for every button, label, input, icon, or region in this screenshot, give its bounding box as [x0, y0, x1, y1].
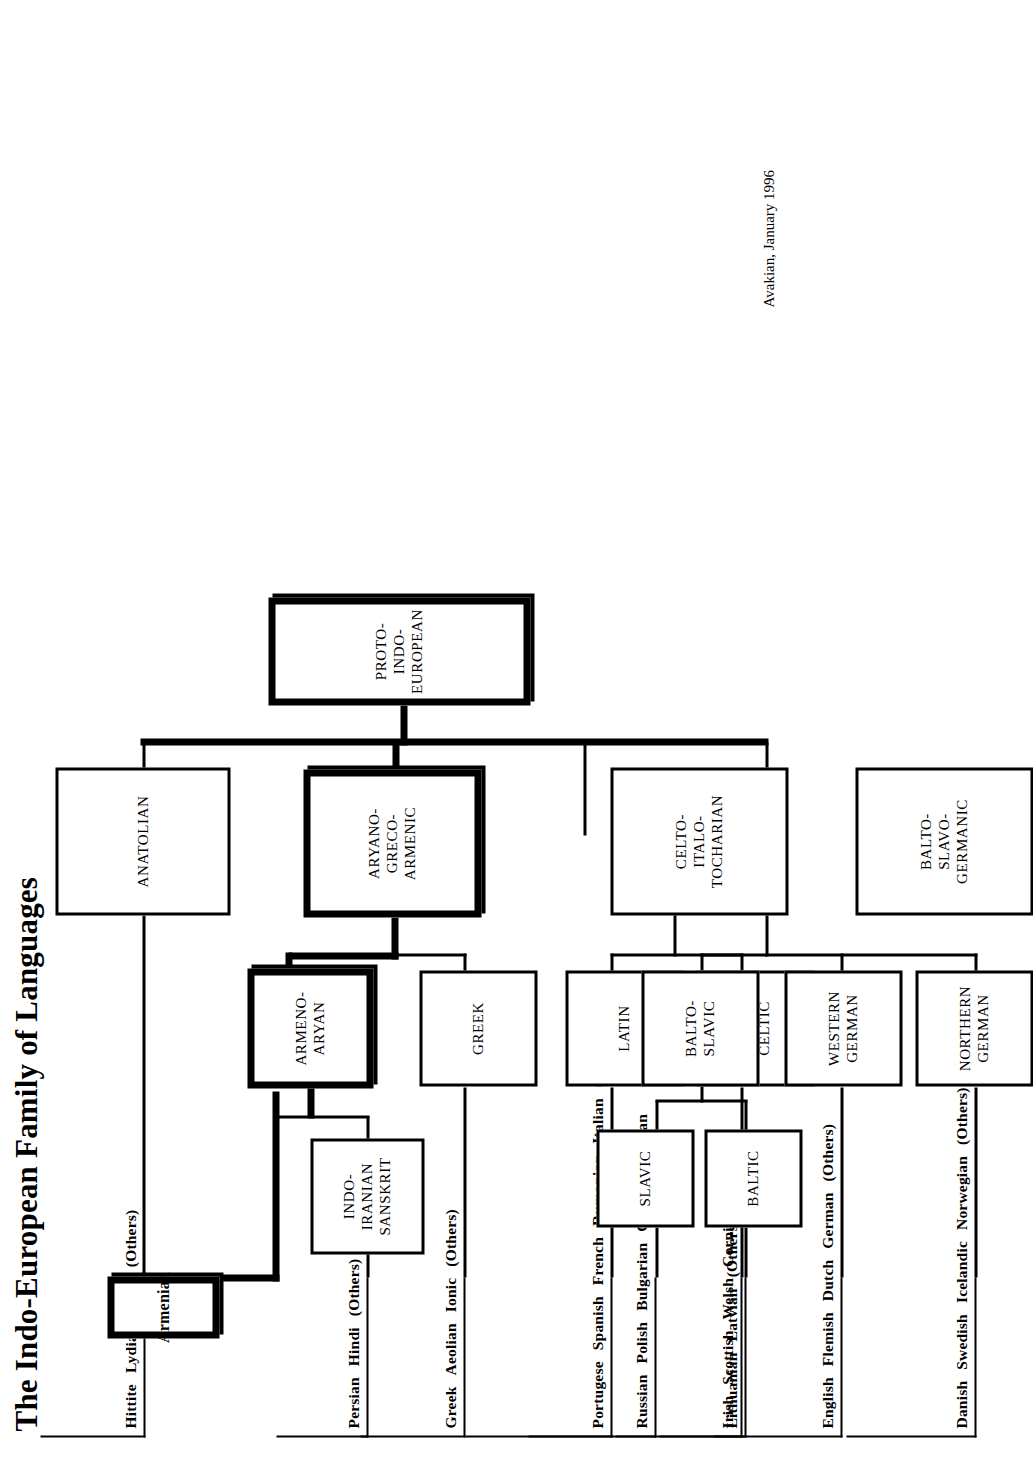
leaf-language-list: PersianHindi(Others): [344, 1247, 362, 1428]
node-indo-iranian-sanskrit[interactable]: INDO- IRANIAN SANSKRIT: [310, 1138, 424, 1254]
stem-baltic: [744, 1227, 747, 1277]
leaf-language: Flemish: [818, 1301, 836, 1366]
edge-armenian-horz: [272, 1091, 279, 1281]
leaf-language: Persian: [344, 1366, 362, 1428]
node-armenian[interactable]: Armenian: [107, 1276, 219, 1338]
node-slavic[interactable]: SLAVIC: [596, 1129, 694, 1227]
leaf-language: Icelandic: [952, 1230, 970, 1303]
node-aryano-greco-armenic[interactable]: ARYANO- GRECO- ARMENIC: [303, 769, 481, 917]
leaf-language: Hittite: [121, 1373, 139, 1428]
node-greek[interactable]: GREEK: [419, 970, 537, 1086]
edge-aga-spine: [288, 952, 398, 959]
leaf-language: (Others): [344, 1247, 362, 1316]
edge-root-stub: [400, 705, 407, 745]
leaf-group-greek: GreekAeolianIonic(Others): [360, 1277, 465, 1437]
edge-aga-stub: [391, 917, 398, 959]
edge-slavic: [655, 1100, 658, 1131]
leaf-language-list: DanishSwedishIcelandicNorwegian(Others): [952, 1076, 970, 1428]
leaf-language: Norwegian: [952, 1144, 970, 1229]
leaf-language: Polish: [632, 1310, 650, 1363]
stem-western-german: [840, 1087, 843, 1277]
leaf-group-western-german: EnglishFlemishDutchGerman(Others): [714, 1277, 842, 1437]
leaf-language: Bulgarian: [632, 1231, 650, 1310]
leaf-language: German: [818, 1181, 836, 1248]
node-celto-italo-tocharian[interactable]: CELTO- ITALO- TOCHARIAN: [610, 767, 788, 915]
node-northern-german[interactable]: NORTHERN GERMAN: [915, 970, 1033, 1086]
edge-bsg-stub: [765, 914, 768, 956]
node-proto-indo-european[interactable]: PROTO-INDO-EUROPEAN: [268, 597, 530, 705]
edge-aa-spine: [278, 1115, 369, 1118]
leaf-language: Russian: [632, 1363, 650, 1428]
leaf-language: English: [818, 1366, 836, 1428]
leaf-language: Hindi: [344, 1316, 362, 1366]
leaf-group-iranian: PersianHindi(Others): [276, 1277, 368, 1437]
edge-bsg-spine: [765, 953, 977, 956]
leaf-language: Danish: [952, 1369, 970, 1428]
node-western-german[interactable]: WESTERN GERMAN: [784, 970, 902, 1086]
stem-indo-iranian: [366, 1252, 369, 1277]
edge-baltic: [744, 1100, 747, 1131]
leaf-group-slavic: RussianPolishBulgarianCzechUkranian: [528, 1277, 656, 1437]
credit-line: Avakian, January 1996: [760, 169, 777, 307]
edge-cit-stub: [673, 914, 676, 956]
edge-armenian-vert: [216, 1274, 279, 1281]
leaf-language: (Others): [818, 1112, 836, 1181]
stem-northern-german: [974, 1087, 977, 1277]
leaf-language: (Others): [121, 1198, 139, 1267]
node-balto-slavic[interactable]: BALTO- SLAVIC: [641, 970, 759, 1086]
node-balto-slavo-germanic[interactable]: BALTO- SLAVO- GERMANIC: [855, 767, 1033, 915]
edge-root-spine: [140, 738, 768, 745]
node-baltic[interactable]: BALTIC: [704, 1129, 802, 1227]
leaf-language: (Others): [441, 1198, 459, 1267]
stem-anatolian: [142, 915, 145, 1277]
stem-slavic: [655, 1227, 658, 1277]
edge-aa-stub: [307, 1086, 314, 1118]
leaf-language: Swedish: [952, 1303, 970, 1370]
node-armeno-aryan[interactable]: ARMENO- ARYAN: [247, 968, 373, 1088]
leaf-language-list: EnglishFlemishDutchGerman(Others): [818, 1112, 836, 1428]
leaf-language: Greek: [441, 1375, 459, 1428]
edge-bsg-spine-up: [700, 953, 766, 956]
leaf-group-northern-german: DanishSwedishIcelandicNorwegian(Others): [846, 1277, 976, 1437]
stem-greek: [463, 1087, 466, 1277]
node-anatolian[interactable]: ANATOLIAN: [55, 767, 230, 915]
leaf-language: Aeolian: [441, 1312, 459, 1375]
edge-celto-italo-tocharian: [583, 742, 586, 835]
leaf-language: French: [588, 1226, 606, 1285]
leaf-language-list: GreekAeolianIonic(Others): [441, 1198, 459, 1428]
leaf-language: Ionic: [441, 1266, 459, 1312]
leaf-language: Dutch: [818, 1248, 836, 1300]
page-title: The Indo-European Family of Languages: [8, 876, 44, 1431]
